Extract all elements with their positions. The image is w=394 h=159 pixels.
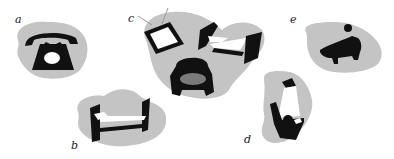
panel-a — [17, 22, 87, 79]
panel-label-e: e — [290, 14, 297, 25]
panel-b — [77, 89, 166, 146]
figure-artwork — [0, 0, 394, 159]
panel-label-c: c — [128, 13, 134, 24]
figure: a b c d e — [0, 0, 394, 159]
panel-d — [262, 71, 313, 143]
panel-e — [305, 22, 381, 73]
panel-label-a: a — [15, 14, 22, 25]
panel-label-d: d — [244, 134, 251, 145]
panel-label-b: b — [71, 140, 78, 151]
panel-c — [138, 8, 264, 99]
